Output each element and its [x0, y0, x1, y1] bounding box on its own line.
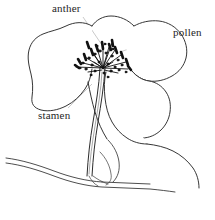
- ground-line-lower: [6, 163, 175, 192]
- sepal-curve: [108, 140, 119, 182]
- sepal-curve-inner: [100, 152, 111, 185]
- label-stamen: stamen: [38, 109, 70, 121]
- root-tuft-2: [93, 176, 108, 184]
- petal-upper-left: [28, 23, 92, 111]
- flower-diagram: anther pollen stamen: [0, 0, 215, 220]
- label-anther: anther: [52, 2, 81, 14]
- petal-lower-lobe: [147, 144, 199, 188]
- label-pollen: pollen: [173, 26, 202, 38]
